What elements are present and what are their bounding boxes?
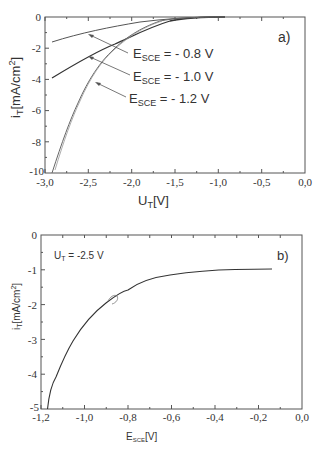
arrow-esce-1.0 xyxy=(90,57,130,75)
plot-b-condition-note: UT = -2.5 V xyxy=(54,250,104,262)
legend-esce-1.2: ESCE = - 1.2 V xyxy=(129,91,210,108)
plot-b-xtick-labels: -1,2 -1,0 -0,8 -0,6 -0,4 -0,2 0,0 xyxy=(32,411,309,423)
plot-a-xtick-labels: -3,0 -2,5 -2,0 -1,5 -1,0 -0,5 0,0 xyxy=(36,176,312,188)
panel-a-label: a) xyxy=(278,29,290,45)
ytick-label: -4 xyxy=(28,368,38,380)
plot-b-frame xyxy=(41,235,302,409)
ytick-label: -3 xyxy=(28,334,38,346)
xtick-label: 0,0 xyxy=(295,411,309,423)
panel-a: 0 -2 -4 -6 -8 -10 -3,0 -2,5 -2,0 -1,5 -1… xyxy=(7,11,312,210)
plot-a-xlabel: UT[V] xyxy=(138,193,169,210)
ytick-label: 0 xyxy=(36,11,42,23)
figure: 0 -2 -4 -6 -8 -10 -3,0 -2,5 -2,0 -1,5 -1… xyxy=(0,0,327,457)
curve-esce-0.8 xyxy=(52,17,225,42)
ytick-label: 0 xyxy=(32,229,38,241)
xtick-label: -2,0 xyxy=(123,176,141,188)
curve-ut-2.5 xyxy=(48,269,273,409)
ytick-label: -4 xyxy=(32,73,42,85)
arrow-esce-0.8 xyxy=(90,35,128,53)
xtick-label: -0,8 xyxy=(119,411,137,423)
xtick-label: -0,4 xyxy=(206,411,224,423)
xtick-label: 0,0 xyxy=(298,176,312,188)
xtick-label: -0,6 xyxy=(163,411,181,423)
plot-b-yticks xyxy=(41,252,45,391)
panel-b: 0 -1 -2 -3 -4 -5 -1,2 -1,0 -0,8 -0,6 -0,… xyxy=(10,229,309,443)
plot-b-xlabel: ESCE[V] xyxy=(126,431,157,443)
plot-b-xticks xyxy=(41,235,280,409)
panel-b-label: b) xyxy=(277,248,289,263)
ytick-label: -1 xyxy=(28,264,37,276)
plot-a-yticks xyxy=(45,33,49,158)
ytick-label: -2 xyxy=(28,299,37,311)
xtick-label: -0,5 xyxy=(253,176,271,188)
xtick-label: -0,2 xyxy=(250,411,267,423)
curve-ut-2.5-loop xyxy=(108,295,118,304)
plot-a-legend: ESCE = - 0.8 V ESCE = - 1.0 V ESCE = - 1… xyxy=(88,34,214,108)
plot-a-ylabel: iT[mA/cm2] xyxy=(7,57,25,118)
arrowhead-icon xyxy=(88,56,94,60)
xtick-label: -1,0 xyxy=(76,411,94,423)
xtick-label: -3,0 xyxy=(36,176,54,188)
xtick-label: -1,0 xyxy=(210,176,228,188)
plot-b-curves xyxy=(48,269,273,409)
plot-b-ytick-labels: 0 -1 -2 -3 -4 -5 xyxy=(28,229,40,413)
arrow-esce-1.2 xyxy=(97,83,126,97)
legend-esce-0.8: ESCE = - 0.8 V xyxy=(133,46,214,63)
arrowhead-icon xyxy=(88,34,94,38)
plot-b-ylabel: iT[mA/cm2] xyxy=(10,283,23,330)
plot-a-ytick-labels: 0 -2 -4 -6 -8 -10 xyxy=(29,11,44,177)
legend-esce-1.0: ESCE = - 1.0 V xyxy=(133,69,214,86)
ytick-label: -2 xyxy=(32,42,41,54)
xtick-label: -1,2 xyxy=(32,411,49,423)
xtick-label: -2,5 xyxy=(80,176,98,188)
ytick-label: -6 xyxy=(32,104,42,116)
xtick-label: -1,5 xyxy=(166,176,184,188)
ytick-label: -8 xyxy=(32,136,42,148)
arrowhead-icon xyxy=(95,82,101,86)
